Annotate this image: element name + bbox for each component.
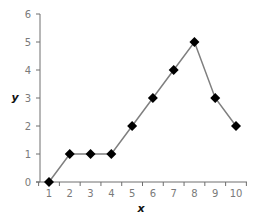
x-tick-label: 10: [230, 188, 243, 199]
y-tick-label: 4: [25, 65, 31, 76]
x-tick-label: 8: [191, 188, 197, 199]
x-tick-label: 1: [46, 188, 52, 199]
x-axis-title: x: [136, 202, 145, 215]
x-tick-label: 5: [129, 188, 135, 199]
x-tick-label: 7: [170, 188, 176, 199]
y-tick-label: 6: [25, 9, 31, 20]
y-tick-label: 0: [25, 177, 31, 188]
data-series: [44, 37, 241, 187]
x-tick-label: 4: [108, 188, 114, 199]
y-tick-label: 5: [25, 37, 31, 48]
y-tick-label: 1: [25, 149, 31, 160]
x-tick-label: 2: [67, 188, 73, 199]
x-tick-label: 9: [212, 188, 218, 199]
x-tick-label: 3: [87, 188, 93, 199]
y-axis: 0123456: [25, 9, 40, 188]
data-point-diamond: [86, 149, 96, 159]
y-tick-label: 3: [25, 93, 31, 104]
series-line: [49, 42, 236, 182]
line-chart: 0123456 12345678910 y x: [0, 0, 260, 224]
x-axis: 12345678910: [36, 182, 247, 199]
y-axis-title: y: [11, 91, 19, 104]
x-tick-label: 6: [150, 188, 156, 199]
y-tick-label: 2: [25, 121, 31, 132]
